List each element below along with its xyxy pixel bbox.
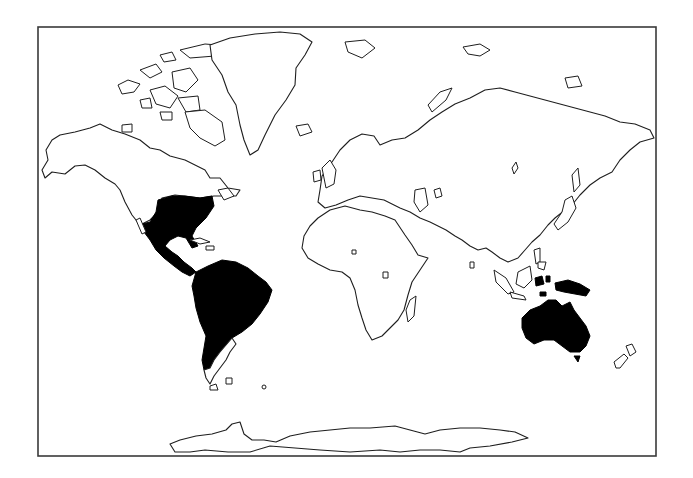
arctic-island xyxy=(140,98,152,108)
south-georgia xyxy=(262,385,266,389)
lake-victoria xyxy=(383,272,388,278)
svalbard xyxy=(345,40,375,58)
arctic-island xyxy=(160,52,176,62)
arctic-island xyxy=(172,68,198,92)
hispaniola xyxy=(206,246,214,250)
sri-lanka xyxy=(470,262,474,268)
arctic-island xyxy=(160,112,172,120)
sumatra xyxy=(494,270,514,294)
ireland xyxy=(313,170,321,182)
arctic-island xyxy=(178,96,200,112)
greenland-outline xyxy=(210,32,312,155)
highlight-island xyxy=(540,292,546,296)
new-siberian-islands xyxy=(565,76,582,88)
tierra-del-fuego xyxy=(210,384,218,390)
highlight-island xyxy=(546,276,550,282)
highlight-south-america xyxy=(192,260,272,370)
baffin-island xyxy=(185,110,225,146)
highlight-tasmania xyxy=(574,356,580,362)
arctic-island xyxy=(150,86,178,108)
borneo xyxy=(516,266,532,288)
iceland-outline xyxy=(296,124,312,136)
highlight-island xyxy=(535,276,544,286)
highlight-australia xyxy=(522,300,590,352)
madagascar xyxy=(406,296,416,322)
arctic-island xyxy=(118,80,140,94)
hudson-bay-island xyxy=(122,124,132,132)
java xyxy=(510,292,526,300)
antarctica-outline xyxy=(170,422,528,452)
arctic-island xyxy=(140,64,162,78)
new-zealand-south xyxy=(614,354,628,368)
falkland-islands xyxy=(226,378,232,384)
aral-sea xyxy=(434,188,442,198)
franz-josef-land xyxy=(463,44,490,56)
new-zealand-north xyxy=(626,344,636,356)
lake-chad xyxy=(352,250,356,254)
highlight-new-guinea xyxy=(555,280,590,296)
sulawesi xyxy=(538,262,546,270)
world-map xyxy=(0,0,693,478)
